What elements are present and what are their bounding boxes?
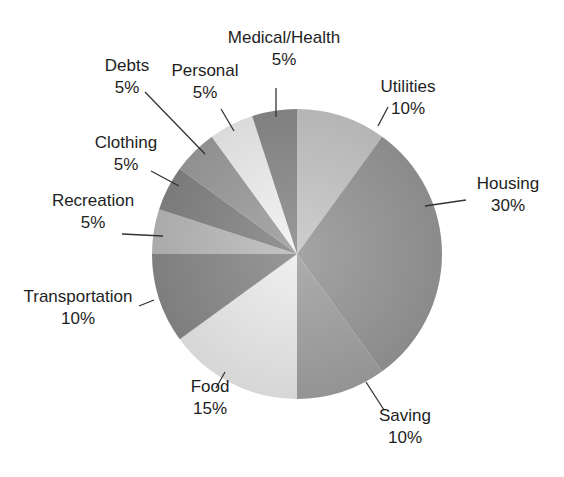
slice-label-saving: Saving10% (379, 406, 431, 447)
slice-label-debts: Debts5% (105, 56, 149, 97)
slice-label-transportation: Transportation10% (24, 287, 133, 328)
slice-label-housing: Housing30% (477, 174, 539, 215)
slice-label-recreation: Recreation5% (52, 191, 134, 232)
slice-label-utilities: Utilities10% (381, 77, 436, 118)
pie-chart: Utilities10%Housing30%Saving10%Food15%Tr… (0, 0, 564, 477)
slice-label-clothing: Clothing5% (95, 133, 157, 174)
slice-label-food: Food15% (191, 377, 230, 418)
slice-label-personal: Personal5% (171, 61, 238, 102)
slice-label-medical-health: Medical/Health5% (228, 28, 340, 69)
leader-line-utilities (378, 107, 388, 126)
pie-shading (152, 109, 442, 399)
leader-line-transportation (139, 300, 154, 306)
